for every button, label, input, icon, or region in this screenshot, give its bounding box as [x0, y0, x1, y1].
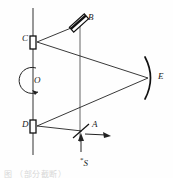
ray-d-to-a	[37, 126, 82, 131]
mirror-d	[30, 120, 36, 133]
label-a: A	[92, 120, 98, 129]
output-beam-line	[85, 134, 106, 135]
optical-diagram-figure: C D B A E O *S 图 （部分截断）	[0, 0, 173, 178]
label-e: E	[158, 72, 164, 81]
caption-strip: 图 （部分截断）	[0, 168, 173, 178]
source-beam-arrowhead-icon	[78, 133, 84, 141]
label-o: O	[34, 76, 41, 85]
label-s-letter: S	[84, 158, 89, 168]
diagram-canvas	[0, 0, 173, 178]
caption-text: 图 （部分截断）	[4, 168, 66, 178]
label-d: D	[22, 120, 29, 129]
ray-c-to-e	[37, 42, 148, 78]
label-c: C	[22, 34, 28, 43]
output-beam-arrowhead-icon	[103, 132, 111, 138]
mirror-b	[69, 14, 88, 32]
label-s: *S	[80, 157, 88, 168]
mirror-c	[30, 36, 36, 49]
label-b: B	[88, 13, 94, 22]
